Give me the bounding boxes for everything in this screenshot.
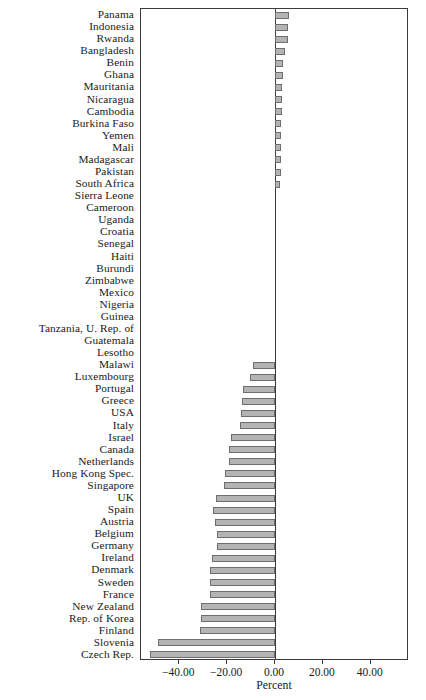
category-label: Cameroon (0, 201, 134, 213)
category-label: USA (0, 406, 134, 418)
category-label: Senegal (0, 237, 134, 249)
horizontal-bar-chart: PanamaIndonesiaRwandaBangladeshBeninGhan… (0, 0, 426, 700)
category-label: Nigeria (0, 298, 134, 310)
category-label: Guinea (0, 310, 134, 322)
category-label: Malawi (0, 358, 134, 370)
category-label: Nicaragua (0, 93, 134, 105)
category-label: Bangladesh (0, 44, 134, 56)
category-label: Spain (0, 503, 134, 515)
category-label: Uganda (0, 213, 134, 225)
category-label: Croatia (0, 225, 134, 237)
x-axis-tick (226, 660, 227, 664)
category-label: Benin (0, 56, 134, 68)
category-label: Czech Rep. (0, 648, 134, 660)
x-axis-tick (178, 660, 179, 664)
category-label: Tanzania, U. Rep. of (0, 322, 134, 334)
category-label: Pakistan (0, 165, 134, 177)
x-axis-tick (370, 660, 371, 664)
category-label: Ghana (0, 68, 134, 80)
category-label: Israel (0, 431, 134, 443)
category-label: Guatemala (0, 334, 134, 346)
category-label: Canada (0, 443, 134, 455)
category-label: Rwanda (0, 32, 134, 44)
category-label: Italy (0, 419, 134, 431)
category-label: Portugal (0, 382, 134, 394)
category-label: Finland (0, 624, 134, 636)
category-label: Luxembourg (0, 370, 134, 382)
category-label: UK (0, 491, 134, 503)
category-label: Yemen (0, 129, 134, 141)
category-label: Hong Kong Spec. (0, 467, 134, 479)
category-label: Madagascar (0, 153, 134, 165)
x-axis-tick (322, 660, 323, 664)
category-label: Mali (0, 141, 134, 153)
category-label: Austria (0, 515, 134, 527)
category-label: Denmark (0, 563, 134, 575)
x-axis-title: Percent (140, 678, 408, 693)
category-label: Slovenia (0, 636, 134, 648)
x-axis-tick (274, 660, 275, 664)
category-label: Lesotho (0, 346, 134, 358)
category-label: New Zealand (0, 600, 134, 612)
category-label: Netherlands (0, 455, 134, 467)
category-label: South Africa (0, 177, 134, 189)
category-label: Burundi (0, 262, 134, 274)
category-label: Indonesia (0, 20, 134, 32)
category-label: Rep. of Korea (0, 612, 134, 624)
category-label: France (0, 588, 134, 600)
category-label: Mexico (0, 286, 134, 298)
category-label: Germany (0, 539, 134, 551)
category-label: Belgium (0, 527, 134, 539)
category-label: Mauritania (0, 80, 134, 92)
category-label: Panama (0, 8, 134, 20)
category-label: Haiti (0, 250, 134, 262)
category-label: Sierra Leone (0, 189, 134, 201)
category-label: Singapore (0, 479, 134, 491)
category-label: Burkina Faso (0, 117, 134, 129)
category-label: Greece (0, 394, 134, 406)
category-label: Ireland (0, 551, 134, 563)
x-axis-ticks-layer: −40.00−20.000.0020.0040.00 (140, 8, 408, 700)
category-label: Cambodia (0, 105, 134, 117)
category-label: Sweden (0, 576, 134, 588)
category-label: Zimbabwe (0, 274, 134, 286)
